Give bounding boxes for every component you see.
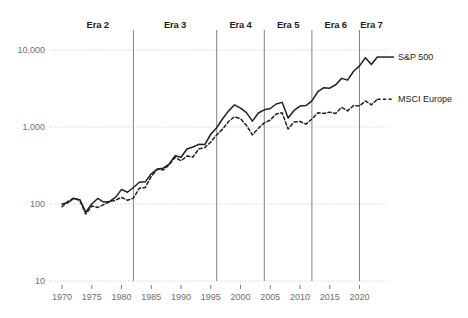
legend-label-msci-europe: MSCI Europe [398,94,452,104]
legend-label-sp500: S&P 500 [398,52,433,62]
x-axis-tick-label: 2020 [349,292,369,302]
x-axis-tick-label: 2005 [260,292,280,302]
x-axis-ticks-group [62,285,360,289]
era-label: Era 4 [229,19,251,30]
x-axis-tick-label: 2015 [320,292,340,302]
series-line-msci-europe [62,99,377,214]
era-label: Era 5 [277,19,299,30]
era-dividers-group [133,30,359,281]
legend-markers-group [377,57,394,99]
era-label: Era 6 [325,19,347,30]
x-axis-tick-label: 1990 [171,292,191,302]
y-axis-tick-label: 10 [35,276,45,286]
y-axis-tick-label: 10,000 [17,45,45,55]
series-group [62,57,377,214]
era-label: Era 3 [164,19,186,30]
x-axis-tick-label: 1995 [201,292,221,302]
gridlines-group [50,50,388,281]
x-axis-tick-label: 1980 [111,292,131,302]
x-axis-tick-label: 1970 [52,292,72,302]
x-axis-tick-label: 2000 [230,292,250,302]
series-line-sp500 [62,57,377,212]
x-axis-tick-label: 1985 [141,292,161,302]
y-axis-tick-label: 1,000 [22,122,45,132]
x-axis-tick-label: 1975 [82,292,102,302]
line-chart [0,0,468,318]
chart-container: 101001,00010,000197019751980198519901995… [0,0,468,318]
y-axis-tick-label: 100 [30,199,45,209]
era-label: Era 7 [360,19,382,30]
era-label: Era 2 [87,19,109,30]
x-axis-tick-label: 2010 [290,292,310,302]
